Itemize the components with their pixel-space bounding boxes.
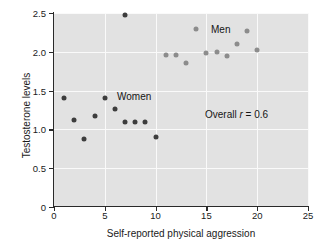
data-point-women xyxy=(133,119,138,124)
data-point-men xyxy=(214,49,219,54)
data-point-women xyxy=(62,96,67,101)
annotation-correlation: Overall r = 0.6 xyxy=(205,109,268,120)
data-point-men xyxy=(255,48,260,53)
data-point-women xyxy=(72,118,77,123)
data-point-women xyxy=(123,120,128,125)
y-axis-tick-label: 1.0 xyxy=(16,124,46,135)
x-axis-label: Self-reported physical aggression xyxy=(54,228,308,239)
data-point-women xyxy=(123,13,128,18)
data-point-men xyxy=(204,50,209,55)
gridline-vertical xyxy=(105,13,106,207)
annotation-men: Men xyxy=(211,24,230,35)
data-point-men xyxy=(224,53,229,58)
plot-area xyxy=(54,13,308,207)
gridline-vertical xyxy=(308,13,309,207)
x-axis-tick-label: 25 xyxy=(293,210,321,221)
x-axis-tick-label: 20 xyxy=(242,210,272,221)
data-point-men xyxy=(245,28,250,33)
data-point-women xyxy=(153,135,158,140)
annotation-r-suffix: = 0.6 xyxy=(243,109,268,120)
data-point-men xyxy=(184,60,189,65)
y-axis-tick xyxy=(49,129,53,130)
gridline-vertical xyxy=(156,13,157,207)
data-point-women xyxy=(143,119,148,124)
gridline-horizontal xyxy=(54,129,308,130)
y-axis-tick xyxy=(49,52,53,53)
y-axis-tick xyxy=(49,207,53,208)
annotation-r-prefix: Overall xyxy=(205,109,239,120)
gridline-horizontal xyxy=(54,91,308,92)
annotation-women: Women xyxy=(117,91,151,102)
y-axis-tick-label: 0.5 xyxy=(16,163,46,174)
x-axis-tick-label: 10 xyxy=(141,210,171,221)
data-point-women xyxy=(112,107,117,112)
y-axis-tick-label: 2.5 xyxy=(16,8,46,19)
y-axis-tick xyxy=(49,168,53,169)
x-axis-tick-label: 5 xyxy=(90,210,120,221)
y-axis-tick xyxy=(49,91,53,92)
y-axis-spine xyxy=(53,12,54,208)
data-point-men xyxy=(163,52,168,57)
gridline-horizontal xyxy=(54,168,308,169)
y-axis-tick-label: 1.5 xyxy=(16,85,46,96)
gridline-horizontal xyxy=(54,52,308,53)
x-axis-tick-label: 15 xyxy=(191,210,221,221)
data-point-men xyxy=(194,26,199,31)
scatter-plot-figure: Testosterone levels Self-reported physic… xyxy=(0,0,321,252)
y-axis-tick xyxy=(49,13,53,14)
y-axis-tick-label: 2.0 xyxy=(16,46,46,57)
gridline-horizontal xyxy=(54,13,308,14)
data-point-men xyxy=(234,42,239,47)
x-axis-tick-label: 0 xyxy=(39,210,69,221)
data-point-men xyxy=(173,52,178,57)
data-point-women xyxy=(82,136,87,141)
x-axis-spine xyxy=(53,206,309,207)
data-point-women xyxy=(102,96,107,101)
data-point-women xyxy=(92,114,97,119)
